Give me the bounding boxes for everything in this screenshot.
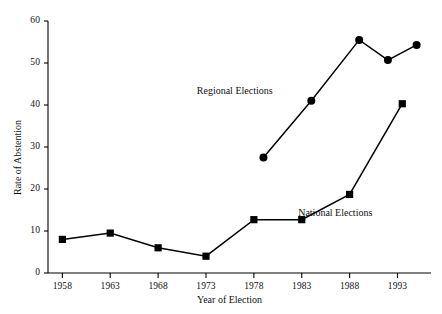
y-tick-label: 40	[14, 100, 40, 110]
x-tick-label: 1963	[101, 282, 120, 292]
x-tick-label: 1973	[196, 282, 215, 292]
x-tick-label: 1968	[148, 282, 167, 292]
data-point-marker	[59, 236, 66, 243]
data-point-marker	[107, 230, 114, 237]
series-annotation-label: Regional Elections	[197, 85, 273, 96]
data-point-marker	[307, 97, 315, 105]
plot-area	[0, 0, 442, 314]
data-point-marker	[413, 41, 421, 49]
x-tick-label: 1988	[340, 282, 359, 292]
x-tick-label: 1993	[388, 282, 407, 292]
x-axis-ticks	[62, 273, 397, 278]
series-regional	[259, 36, 420, 162]
series-line	[263, 40, 416, 158]
data-point-marker	[202, 253, 209, 260]
y-tick-label: 10	[14, 226, 40, 236]
data-point-marker	[259, 154, 267, 162]
data-point-marker	[346, 191, 353, 198]
data-point-marker	[250, 216, 257, 223]
y-tick-label: 50	[14, 58, 40, 68]
data-point-marker	[399, 100, 406, 107]
series-national	[59, 100, 406, 260]
x-axis-title: Year of Election	[197, 294, 262, 305]
data-point-marker	[155, 244, 162, 251]
axes	[44, 21, 431, 278]
abstention-line-chart: 0102030405060 19581963196819731978198319…	[0, 0, 442, 314]
x-tick-label: 1978	[244, 282, 263, 292]
y-tick-label: 0	[14, 268, 40, 278]
y-axis-ticks	[44, 21, 48, 273]
series-annotation-label: National Elections	[298, 207, 372, 218]
x-tick-label: 1983	[292, 282, 311, 292]
data-point-marker	[355, 36, 363, 44]
x-tick-label: 1958	[53, 282, 72, 292]
data-point-marker	[384, 56, 392, 64]
y-axis-title: Rate of Abstention	[12, 120, 23, 195]
y-tick-label: 60	[14, 16, 40, 26]
data-series-group	[59, 36, 421, 260]
